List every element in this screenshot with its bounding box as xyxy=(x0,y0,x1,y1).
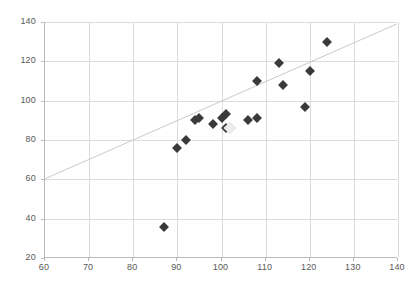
y-tick-label: 140 xyxy=(8,16,36,26)
data-point xyxy=(274,58,284,68)
data-point xyxy=(252,113,262,123)
x-tick-mark xyxy=(397,258,398,261)
y-tick-label: 100 xyxy=(8,95,36,105)
x-tick-mark xyxy=(44,258,45,261)
gridline-horizontal xyxy=(45,179,397,180)
data-point xyxy=(181,135,191,145)
gridline-horizontal xyxy=(45,140,397,141)
plot-area xyxy=(44,22,397,258)
y-tick-label: 120 xyxy=(8,55,36,65)
x-tick-label: 120 xyxy=(294,262,324,272)
x-tick-mark xyxy=(176,258,177,261)
gridline-horizontal xyxy=(45,101,397,102)
gridline-horizontal xyxy=(45,61,397,62)
data-point xyxy=(208,119,218,129)
x-tick-mark xyxy=(88,258,89,261)
data-point xyxy=(172,143,182,153)
data-point xyxy=(159,222,169,232)
data-point xyxy=(322,37,332,47)
gridline-vertical xyxy=(398,22,399,257)
x-tick-label: 70 xyxy=(73,262,103,272)
y-tick-label: 40 xyxy=(8,213,36,223)
y-tick-label: 20 xyxy=(8,252,36,262)
x-tick-label: 80 xyxy=(117,262,147,272)
y-tick-mark xyxy=(41,258,44,259)
y-tick-label: 60 xyxy=(8,173,36,183)
x-tick-label: 100 xyxy=(206,262,236,272)
data-point xyxy=(305,66,315,76)
x-tick-mark xyxy=(353,258,354,261)
x-tick-mark xyxy=(132,258,133,261)
x-tick-mark xyxy=(309,258,310,261)
x-tick-label: 60 xyxy=(29,262,59,272)
x-tick-label: 140 xyxy=(382,262,412,272)
data-point xyxy=(278,80,288,90)
gridline-horizontal xyxy=(45,22,397,23)
gridline-horizontal xyxy=(45,219,397,220)
x-tick-mark xyxy=(265,258,266,261)
x-tick-label: 130 xyxy=(338,262,368,272)
x-tick-label: 110 xyxy=(250,262,280,272)
y-tick-label: 80 xyxy=(8,134,36,144)
scatter-chart: 60708090100110120130140 2040608010012014… xyxy=(0,0,418,286)
data-point xyxy=(252,76,262,86)
x-tick-mark xyxy=(221,258,222,261)
x-tick-label: 90 xyxy=(161,262,191,272)
